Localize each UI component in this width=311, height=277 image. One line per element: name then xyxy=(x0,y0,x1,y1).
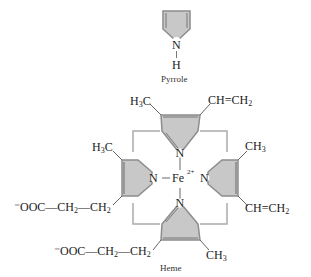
vinyl-right-bottom: CH=CH2 xyxy=(245,201,289,216)
heme-caption: Heme xyxy=(160,263,182,273)
pyrrole-ring-right xyxy=(208,160,238,196)
heme-n-left: N xyxy=(149,171,158,185)
heme-n-top: N xyxy=(176,146,185,160)
methyl-right-top: CH3 xyxy=(245,139,266,154)
pyrrole-ring-left xyxy=(122,160,152,196)
heme-diagram: N H Pyrrole xyxy=(0,0,311,277)
propionate-left: ⁻OOC—CH2—CH2 xyxy=(14,200,111,215)
pyrrole-n: N xyxy=(172,38,181,52)
iron-charge: 2+ xyxy=(187,168,195,176)
heme-n-bottom: N xyxy=(176,196,185,210)
methyl-left-top: H3C xyxy=(92,140,113,155)
vinyl-top-right: CH=CH2 xyxy=(208,93,252,108)
heme-n-right: N xyxy=(200,171,209,185)
pyrrole-ring-bottom xyxy=(161,206,200,240)
pyrrole-h: H xyxy=(172,58,181,72)
pyrrole-structure: N H Pyrrole xyxy=(161,11,190,84)
methyl-bottom-right: CH3 xyxy=(206,248,227,263)
methyl-top-left: H3C xyxy=(130,94,151,109)
pyrrole-ring-top xyxy=(161,115,200,150)
pyrrole-caption: Pyrrole xyxy=(161,74,188,84)
propionate-bottom: ⁻OOC—CH2—CH2 xyxy=(54,244,151,259)
iron-center: Fe xyxy=(172,171,184,185)
